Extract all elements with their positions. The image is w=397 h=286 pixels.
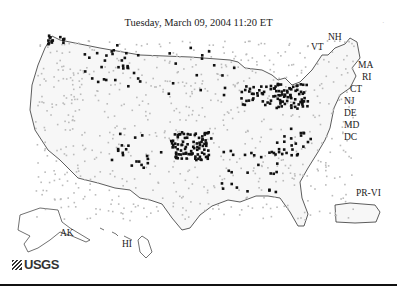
faint-mark: · [382, 18, 385, 27]
puerto-rico-outline [335, 203, 380, 223]
usgs-logo[interactable]: USGS [12, 257, 59, 272]
state-label-vt: VT [311, 42, 324, 52]
state-label-ak: AK [60, 228, 74, 238]
state-label-dc: DC [344, 132, 357, 142]
state-label-hi: HI [122, 239, 132, 249]
state-label-nh: NH [328, 32, 342, 42]
usgs-logo-icon [12, 260, 22, 270]
state-label-md: MD [344, 120, 359, 130]
state-label-ma: MA [358, 60, 373, 70]
map-timestamp: Tuesday, March 09, 2004 11:20 ET [0, 17, 397, 28]
state-label-pr-vi: PR-VI [356, 188, 381, 198]
alaska-outline [18, 208, 90, 252]
state-label-ct: CT [350, 84, 362, 94]
state-label-de: DE [344, 108, 357, 118]
state-label-nj: NJ [344, 96, 355, 106]
state-label-ri: RI [362, 72, 372, 82]
us-map [0, 0, 397, 286]
